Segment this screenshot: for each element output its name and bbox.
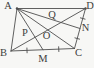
intersection-label-Q: Q (48, 9, 56, 20)
intersection-label-O: O (43, 30, 51, 41)
vertex-label-B: B (0, 47, 7, 58)
midpoint-label-N: N (82, 22, 90, 33)
edge-BA-line (11, 9, 17, 52)
vertex-dot-A (16, 7, 18, 9)
equal-segment-tick-NC (75, 38, 80, 39)
vertex-label-C: C (75, 47, 82, 58)
edge-AM-line (17, 9, 43, 50)
intersection-label-P: P (22, 27, 28, 38)
midpoint-label-M: M (38, 53, 48, 64)
vertex-label-D: D (86, 0, 94, 11)
vertex-label-A: A (4, 0, 12, 11)
geometry-figure: ADBCMNPQO (0, 0, 94, 68)
figure-canvas: ADBCMNPQO (0, 0, 94, 68)
equal-segment-tick-DN (80, 18, 85, 19)
